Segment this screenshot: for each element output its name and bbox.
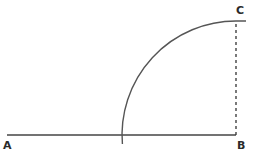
point-label-b: B [237, 140, 245, 151]
geometry-diagram [0, 0, 256, 158]
point-label-a: A [3, 140, 12, 151]
arc-from-line-to-c [122, 21, 246, 144]
point-label-c: C [236, 5, 244, 16]
